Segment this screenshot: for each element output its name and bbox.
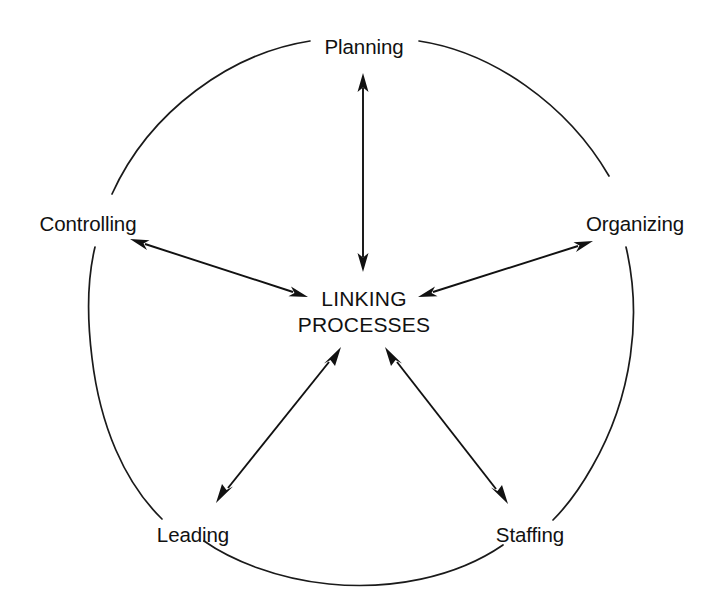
center-label-line2: PROCESSES [298,313,431,336]
diagram-svg: Planning Organizing Staffing Leading Con… [0,0,715,612]
connector-organizing-line [433,246,578,292]
connector-controlling [130,239,308,297]
center-hub-label[interactable]: LINKING PROCESSES [298,287,431,336]
node-label-controlling[interactable]: Controlling [40,212,137,235]
center-label-line1: LINKING [321,287,406,310]
connector-organizing [418,241,593,297]
connector-leading [216,347,341,503]
connector-controlling-line [145,244,293,292]
connector-staffing-line [397,362,496,489]
arc-staffing-to-leading [204,541,503,585]
connector-leading-line [228,362,329,488]
arc-leading-to-controlling [88,247,162,519]
connector-staffing [385,347,508,504]
arc-planning-to-organizing [419,41,609,176]
node-label-organizing[interactable]: Organizing [586,212,684,235]
node-label-leading[interactable]: Leading [157,523,229,546]
arrow-head-staffing-out [491,485,508,504]
node-label-planning[interactable]: Planning [325,35,404,58]
node-label-staffing[interactable]: Staffing [496,523,564,546]
arc-organizing-to-staffing [553,247,633,520]
diagram-canvas: Planning Organizing Staffing Leading Con… [0,0,715,612]
arrow-head-staffing-in [385,347,402,366]
arc-controlling-to-planning [112,41,310,194]
arrow-head-leading-out [216,484,233,503]
connector-planning [358,73,369,272]
arrow-head-leading-in [324,347,341,366]
